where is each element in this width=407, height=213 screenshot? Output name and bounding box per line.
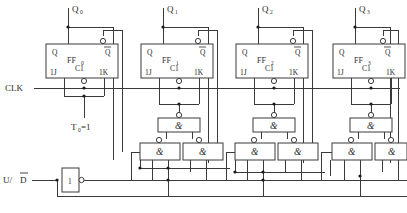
nand-symbol: & — [175, 121, 183, 131]
ff2-clk-label: C1 — [265, 64, 274, 73]
t0-label-group: T 0 =1 — [71, 122, 91, 133]
nand-symbol: & — [294, 147, 302, 157]
nand-output-bubble-icon — [388, 137, 393, 142]
ff1-q-label: Q — [147, 48, 153, 57]
output-sub-q0: 0 — [80, 9, 83, 15]
ff2-q-label: Q — [242, 48, 248, 57]
updown-overline-char: D — [20, 175, 27, 185]
flipflop-ff0[interactable]: Q Q FF 0 1J C1 1K — [46, 38, 118, 83]
clock-bubble-icon — [368, 78, 373, 83]
ff1-k-label: 1K — [194, 68, 204, 77]
ff2-k-label: 1K — [289, 68, 299, 77]
nand-output-bubble-icon — [156, 137, 161, 142]
ff0-qbar-label: Q — [105, 48, 111, 57]
qbar-bubble-icon — [290, 38, 295, 43]
clk-label: CLK — [5, 83, 24, 93]
nand-output-bubble-icon — [271, 112, 276, 117]
inverter-symbol: 1 — [68, 177, 72, 186]
canvas-background — [0, 0, 407, 213]
ff1-j-label: 1J — [145, 68, 152, 77]
inverter-output-bubble-icon — [79, 177, 84, 182]
ff0-k-label: 1K — [99, 68, 109, 77]
ff0-q-label: Q — [52, 48, 58, 57]
clock-input: CLK — [5, 83, 24, 93]
ff3-q-label: Q — [339, 48, 345, 57]
output-sub-q3: 3 — [367, 9, 370, 15]
nand-output-bubble-icon — [348, 137, 353, 142]
flipflop-ff1[interactable]: Q Q FF 1 1J C1 1K — [141, 38, 213, 83]
nand-symbol: & — [156, 147, 164, 157]
ff3-k-label: 1K — [386, 68, 396, 77]
nand-output-bubble-icon — [176, 112, 181, 117]
ff3-j-label: 1J — [337, 68, 344, 77]
flipflop-ff2[interactable]: Q Q FF 2 1J C1 1K — [236, 38, 308, 83]
output-label-q1: Q — [167, 4, 174, 14]
qbar-bubble-icon — [100, 38, 105, 43]
output-sub-q2: 2 — [270, 9, 273, 15]
output-label-q0: Q — [72, 4, 79, 14]
nand-symbol: & — [388, 147, 396, 157]
nand-output-bubble-icon — [196, 137, 201, 142]
nand-output-bubble-icon — [368, 112, 373, 117]
ff0-j-label: 1J — [50, 68, 57, 77]
ff1-clk-label: C1 — [170, 64, 179, 73]
schematic-canvas: Q Q FF 0 1J C1 1K Q Q FF 1 1J C1 1K Q Q … — [0, 0, 407, 213]
t0-suffix: =1 — [81, 122, 91, 132]
nand-symbol: & — [348, 147, 356, 157]
qbar-bubble-icon — [380, 38, 385, 43]
nand-output-bubble-icon — [291, 137, 296, 142]
ff3-clk-label: C1 — [362, 64, 371, 73]
ff2-qbar-label: Q — [295, 48, 301, 57]
qbar-bubble-icon — [195, 38, 200, 43]
flipflop-ff3[interactable]: Q Q FF 3 1J C1 1K — [333, 38, 405, 83]
output-label-q3: Q — [359, 4, 366, 14]
nand-symbol: & — [367, 121, 375, 131]
ff0-clk-label: C1 — [75, 64, 84, 73]
clock-bubble-icon — [176, 78, 181, 83]
nand-symbol: & — [199, 147, 207, 157]
nand-symbol: & — [251, 147, 259, 157]
nand-symbol: & — [270, 121, 278, 131]
clock-bubble-icon — [81, 78, 86, 83]
nand-output-bubble-icon — [251, 137, 256, 142]
ff3-qbar-label: Q — [385, 48, 391, 57]
clock-bubble-icon — [271, 78, 276, 83]
ff1-qbar-label: Q — [200, 48, 206, 57]
updown-label: U/ — [3, 175, 12, 185]
output-label-q2: Q — [262, 4, 269, 14]
ff2-j-label: 1J — [240, 68, 247, 77]
output-sub-q1: 1 — [175, 9, 178, 15]
t0-label: T — [71, 122, 77, 132]
